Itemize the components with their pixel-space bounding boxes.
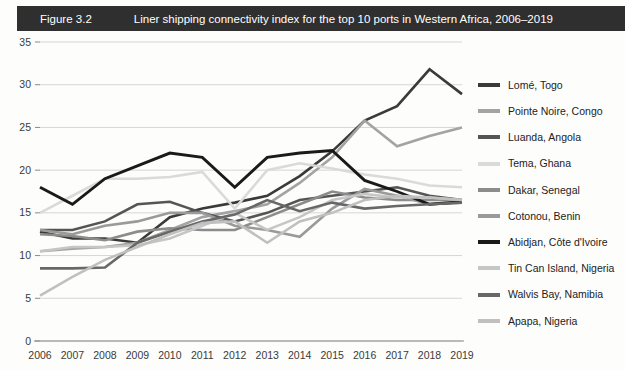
legend-item-label: Cotonou, Benin [508, 211, 580, 222]
x-axis-tick-label: 2008 [93, 349, 117, 361]
legend-color-swatch [478, 83, 500, 87]
legend-item-label: Lomé, Togo [508, 80, 563, 91]
legend-item-label: Tin Can Island, Nigeria [508, 263, 614, 274]
y-axis-tick-label: 10 [19, 249, 31, 261]
y-axis-tick-label: 25 [19, 121, 31, 133]
x-axis-tick-label: 2009 [126, 349, 150, 361]
legend-item[interactable]: Pointe Noire, Congo [478, 98, 625, 124]
x-axis-tick-label: 2007 [61, 349, 85, 361]
y-axis-tick-label: 30 [19, 78, 31, 90]
y-axis-tick-label: 20 [19, 164, 31, 176]
legend-item[interactable]: Cotonou, Benin [478, 203, 625, 229]
figure-number: Figure 3.2 [40, 13, 92, 25]
legend-item[interactable]: Apapa, Nigeria [478, 308, 625, 334]
legend-item[interactable]: Tin Can Island, Nigeria [478, 255, 625, 281]
legend-item-label: Abidjan, Côte d'Ivoire [508, 237, 607, 248]
x-axis-tick-label: 2019 [450, 349, 474, 361]
y-axis-tick-label: 15 [19, 206, 31, 218]
legend-item-label: Walvis Bay, Namibia [508, 289, 603, 300]
x-axis-tick-label: 2016 [353, 349, 377, 361]
x-axis-tick-label: 2006 [28, 349, 52, 361]
legend-item[interactable]: Abidjan, Côte d'Ivoire [478, 229, 625, 255]
x-axis-tick-label: 2018 [418, 349, 442, 361]
legend-item-label: Tema, Ghana [508, 158, 571, 169]
legend-color-swatch [478, 293, 500, 297]
chart-legend: Lomé, TogoPointe Noire, CongoLuanda, Ang… [478, 72, 625, 334]
x-axis-tick-label: 2013 [256, 349, 280, 361]
figure-header-bar: Figure 3.2 Liner shipping connectivity i… [17, 6, 625, 31]
legend-item-label: Dakar, Senegal [508, 185, 580, 196]
legend-item[interactable]: Luanda, Angola [478, 124, 625, 150]
legend-item[interactable]: Dakar, Senegal [478, 177, 625, 203]
y-axis-tick-label: 0 [25, 335, 31, 347]
legend-color-swatch [478, 266, 500, 270]
legend-item[interactable]: Walvis Bay, Namibia [478, 282, 625, 308]
legend-color-swatch [478, 162, 500, 166]
y-axis-tick-label: 35 [19, 36, 31, 48]
x-axis-tick-label: 2012 [223, 349, 247, 361]
legend-color-swatch [478, 109, 500, 113]
legend-item-label: Luanda, Angola [508, 132, 581, 143]
legend-color-swatch [478, 188, 500, 192]
series-line [40, 200, 462, 268]
legend-color-swatch [478, 319, 500, 323]
legend-item-label: Apapa, Nigeria [508, 316, 577, 327]
legend-color-swatch [478, 135, 500, 139]
legend-item-label: Pointe Noire, Congo [508, 106, 603, 117]
x-axis-tick-label: 2017 [385, 349, 409, 361]
x-axis-tick-label: 2010 [158, 349, 182, 361]
legend-color-swatch [478, 214, 500, 218]
x-axis-tick-label: 2015 [320, 349, 344, 361]
y-axis-tick-label: 5 [25, 292, 31, 304]
legend-item[interactable]: Tema, Ghana [478, 151, 625, 177]
figure-title: Liner shipping connectivity index for th… [134, 13, 553, 25]
x-axis-tick-label: 2014 [288, 349, 312, 361]
figure-container: Figure 3.2 Liner shipping connectivity i… [0, 0, 625, 370]
x-axis-tick-label: 2011 [191, 349, 214, 361]
legend-item[interactable]: Lomé, Togo [478, 72, 625, 98]
legend-color-swatch [478, 240, 500, 244]
